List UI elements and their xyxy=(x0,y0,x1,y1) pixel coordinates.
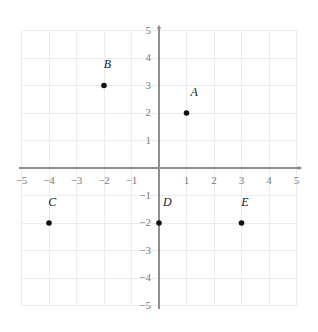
point-marker-d xyxy=(156,220,162,226)
y-tick-label: −2 xyxy=(139,216,151,228)
y-tick-label: 1 xyxy=(146,134,152,146)
point-c: C xyxy=(46,195,57,226)
point-marker-a xyxy=(184,110,190,116)
point-a: A xyxy=(184,85,199,116)
y-tick-label: −1 xyxy=(139,189,151,201)
x-tick-label: −2 xyxy=(98,174,110,186)
y-axis-tick-labels: 54321−1−2−3−4−5 xyxy=(139,24,151,311)
point-label-d: D xyxy=(162,195,172,209)
point-label-a: A xyxy=(190,85,199,99)
point-b: B xyxy=(101,57,111,88)
y-tick-label: −5 xyxy=(139,299,151,311)
point-marker-b xyxy=(101,83,107,89)
y-tick-label: 2 xyxy=(146,106,152,118)
x-tick-label: −4 xyxy=(43,174,55,186)
point-label-e: E xyxy=(240,195,249,209)
point-marker-e xyxy=(239,220,245,226)
x-tick-label: 1 xyxy=(184,174,190,186)
y-axis-arrowhead xyxy=(157,25,161,30)
x-tick-label: 2 xyxy=(211,174,217,186)
x-tick-label: −5 xyxy=(16,174,28,186)
point-marker-c xyxy=(46,220,52,226)
x-axis-tick-labels: −5−4−3−2−112345 xyxy=(16,174,300,186)
x-tick-label: 5 xyxy=(294,174,300,186)
x-tick-label: 4 xyxy=(266,174,272,186)
x-tick-label: −3 xyxy=(71,174,83,186)
point-label-b: B xyxy=(104,57,112,71)
coordinate-plane-figure: −5−4−3−2−112345 54321−1−2−3−4−5 ABCDE xyxy=(0,0,318,332)
point-e: E xyxy=(239,195,249,226)
y-tick-label: 4 xyxy=(146,51,152,63)
x-tick-label: −1 xyxy=(126,174,138,186)
y-tick-label: −4 xyxy=(139,271,151,283)
point-label-c: C xyxy=(48,195,57,209)
axes xyxy=(19,25,303,309)
y-tick-label: −3 xyxy=(139,244,151,256)
y-tick-label: 3 xyxy=(146,79,152,91)
coordinate-plane-svg: −5−4−3−2−112345 54321−1−2−3−4−5 ABCDE xyxy=(0,0,318,332)
x-tick-label: 3 xyxy=(239,174,245,186)
y-tick-label: 5 xyxy=(146,24,152,36)
x-axis-arrowhead xyxy=(298,166,303,170)
